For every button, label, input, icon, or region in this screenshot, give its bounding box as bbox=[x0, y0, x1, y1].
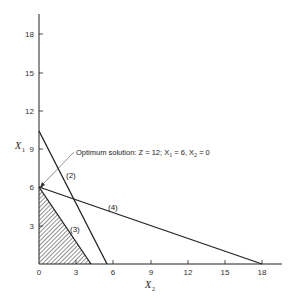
y-tick-labels: 3 6 9 12 15 18 bbox=[25, 30, 34, 231]
svg-text:12: 12 bbox=[184, 268, 193, 277]
svg-text:Optimum solution: Z = 12; X1: Optimum solution: Z = 12; X1 = 6, X2 = 0 bbox=[76, 148, 210, 158]
svg-text:X: X bbox=[144, 279, 152, 290]
svg-text:9: 9 bbox=[149, 268, 154, 277]
svg-text:3: 3 bbox=[74, 268, 79, 277]
svg-text:9: 9 bbox=[30, 145, 35, 154]
lp-graph: 3 6 9 12 15 18 0 3 6 9 12 15 18 X 2 X 1 … bbox=[0, 0, 297, 300]
line-label-2: (2) bbox=[66, 171, 76, 180]
svg-text:6: 6 bbox=[30, 183, 35, 192]
svg-text:18: 18 bbox=[258, 268, 267, 277]
line-label-3: (3) bbox=[70, 225, 80, 234]
line-label-4: (4) bbox=[108, 203, 118, 212]
x-tick-labels: 0 3 6 9 12 15 18 bbox=[37, 268, 267, 277]
optimum-annotation: Optimum solution: Z = 12; X1 = 6, X2 = 0 bbox=[76, 148, 210, 158]
svg-text:15: 15 bbox=[221, 268, 230, 277]
svg-text:0: 0 bbox=[37, 268, 42, 277]
svg-text:15: 15 bbox=[25, 69, 34, 78]
svg-text:12: 12 bbox=[25, 107, 34, 116]
y-axis-title: X 1 bbox=[14, 140, 25, 153]
svg-text:18: 18 bbox=[25, 30, 34, 39]
svg-text:X: X bbox=[14, 140, 22, 151]
svg-text:1: 1 bbox=[22, 147, 25, 153]
svg-text:2: 2 bbox=[152, 286, 155, 292]
x-ticks bbox=[76, 260, 262, 264]
svg-text:3: 3 bbox=[30, 222, 35, 231]
x-axis-title: X 2 bbox=[144, 279, 155, 292]
annotation-leader bbox=[42, 152, 74, 185]
svg-text:6: 6 bbox=[111, 268, 116, 277]
